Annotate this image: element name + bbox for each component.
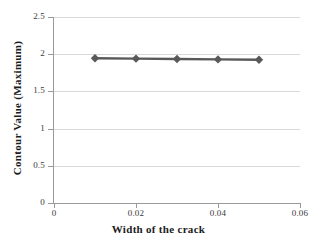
- y-tick-mark: [48, 54, 54, 55]
- y-axis-title: Contour Value (Maximum): [11, 13, 23, 203]
- gridline-y-1_5: [54, 91, 300, 92]
- x-tick-label-0_02: 0.02: [116, 208, 156, 218]
- y-axis-line: [53, 17, 54, 204]
- y-tick-mark: [48, 166, 54, 167]
- y-tick-mark: [48, 91, 54, 92]
- x-tick-label-0_04: 0.04: [198, 208, 238, 218]
- y-tick-mark: [48, 17, 54, 18]
- gridline-y-1: [54, 129, 300, 130]
- chart-container: 2.5 2 1.5 1 0.5 0 0 0.02 0.04 0.06 Width…: [0, 0, 317, 244]
- x-axis-line: [53, 203, 301, 204]
- x-tick-label-0_06: 0.06: [280, 208, 317, 218]
- x-axis-title: Width of the crack: [0, 223, 317, 235]
- plot-area: [54, 17, 300, 203]
- gridline-y-2_5: [54, 17, 300, 18]
- gridline-y-0_5: [54, 166, 300, 167]
- gridline-y-2: [54, 54, 300, 55]
- x-tick-label-0: 0: [34, 208, 74, 218]
- y-tick-mark: [48, 129, 54, 130]
